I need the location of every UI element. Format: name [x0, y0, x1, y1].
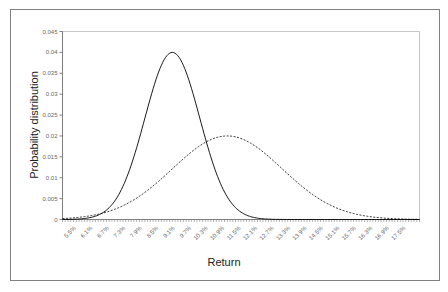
y-tick-label: 0.015	[42, 154, 58, 160]
y-tick-label: 0.035	[42, 70, 58, 76]
y-tick-label: 0.005	[42, 196, 58, 202]
x-axis-title: Return	[207, 256, 240, 268]
y-tick-label: 0.02	[46, 133, 58, 139]
y-tick-label: 0.04	[46, 49, 58, 55]
y-axis-title: Probability distribution	[28, 71, 40, 179]
y-tick-label: 0.045	[42, 29, 58, 35]
plot-area	[63, 32, 420, 220]
y-tick-label: 0.03	[46, 91, 58, 97]
chart: 00.0050.010.0150.020.0250.030.0350.040.0…	[0, 0, 448, 292]
y-tick-label: 0.01	[46, 175, 58, 181]
y-tick-label: 0.025	[42, 112, 58, 118]
